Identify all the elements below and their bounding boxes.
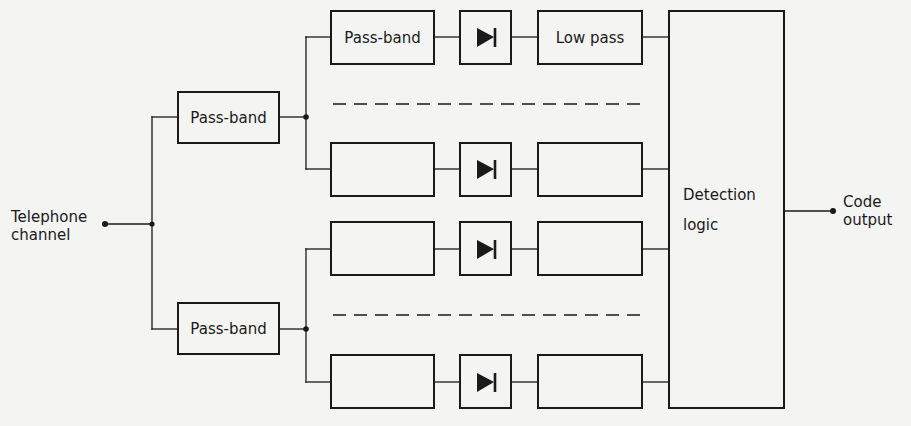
output-label-line1: Code <box>843 193 881 211</box>
input-wiring <box>105 117 178 329</box>
logic-label-line1: Detection <box>683 186 756 204</box>
channel-2-passband-filter <box>331 143 434 196</box>
channel-4-lowpass-filter <box>538 355 642 408</box>
upper-group-wiring <box>279 37 331 169</box>
input-label-line1: Telephone <box>10 208 87 226</box>
first-stage-lower-label: Pass-band <box>190 320 266 338</box>
output-label-line2: output <box>843 211 893 229</box>
first-stage-upper-label: Pass-band <box>190 109 266 127</box>
diode-icon <box>477 160 495 179</box>
diode-icon <box>477 373 495 392</box>
detection-logic-block <box>669 11 784 408</box>
channel-row-3 <box>331 222 669 275</box>
upper-junction-dot <box>303 114 309 120</box>
diode-icon <box>477 28 495 47</box>
input-terminal-dot <box>102 221 108 227</box>
lower-group-wiring <box>279 249 331 382</box>
logic-label-line2: logic <box>683 216 718 234</box>
output-terminal-dot <box>830 208 836 214</box>
channel-3-passband-filter <box>331 222 434 275</box>
channel-row-4 <box>331 355 669 408</box>
tone-detector-block-diagram: Telephone channel Pass-band Pass-band Pa… <box>0 0 911 426</box>
channel-row-2 <box>331 143 669 196</box>
lower-junction-dot <box>303 326 309 332</box>
input-junction-dot <box>149 221 154 226</box>
channel-1-lowpass-label: Low pass <box>556 29 625 47</box>
channel-1-passband-label: Pass-band <box>344 29 420 47</box>
channel-2-lowpass-filter <box>538 143 642 196</box>
input-label-line2: channel <box>11 226 70 244</box>
channel-3-lowpass-filter <box>538 222 642 275</box>
diode-icon <box>477 240 495 259</box>
channel-4-passband-filter <box>331 355 434 408</box>
